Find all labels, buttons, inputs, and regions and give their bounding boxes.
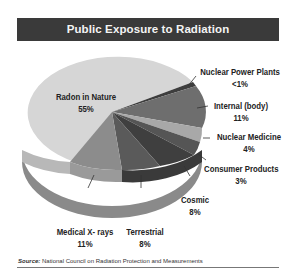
label-consumer: Consumer Products3% bbox=[204, 163, 278, 187]
source-note: Source: National Council on Radiation Pr… bbox=[18, 258, 203, 264]
label-nuclear-power: Nuclear Power Plants<1% bbox=[199, 66, 281, 90]
label-cosmic: Cosmic8% bbox=[175, 194, 216, 218]
label-terrestrial: Terrestrial8% bbox=[120, 226, 169, 250]
label-xrays: Medical X- rays11% bbox=[52, 226, 118, 250]
source-prefix: Source: bbox=[18, 258, 40, 264]
label-internal: Internal (body)11% bbox=[212, 100, 269, 124]
label-radon: Radon in Nature55% bbox=[53, 91, 119, 115]
source-text: National Council on Radiation Protection… bbox=[42, 258, 203, 264]
divider bbox=[17, 267, 279, 268]
label-nuclear-medicine: Nuclear Medicine4% bbox=[212, 131, 286, 155]
